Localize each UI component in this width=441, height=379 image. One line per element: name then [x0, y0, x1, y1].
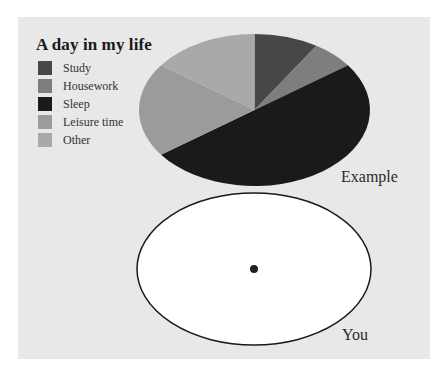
you-pie-chart [137, 193, 371, 345]
legend-item-other: Other [38, 131, 152, 149]
legend-label: Other [63, 133, 90, 148]
swatch-study [38, 61, 52, 75]
example-pie-chart [139, 34, 370, 186]
legend-label: Study [63, 61, 91, 76]
example-label: Example [341, 168, 398, 186]
legend-item-leisure: Leisure time [38, 113, 152, 131]
legend-item-study: Study [38, 59, 152, 77]
center-dot [250, 265, 258, 273]
legend-label: Housework [63, 79, 118, 94]
legend-label: Leisure time [63, 115, 123, 130]
legend-item-sleep: Sleep [38, 95, 152, 113]
legend-item-housework: Housework [38, 77, 152, 95]
swatch-housework [38, 79, 52, 93]
legend-label: Sleep [63, 97, 90, 112]
swatch-other [38, 133, 52, 147]
swatch-sleep [38, 97, 52, 111]
you-label: You [342, 326, 368, 344]
legend: A day in my life Study Housework Sleep L… [38, 35, 152, 149]
swatch-leisure [38, 115, 52, 129]
legend-title: A day in my life [36, 35, 152, 55]
